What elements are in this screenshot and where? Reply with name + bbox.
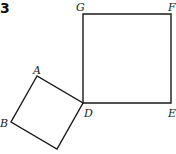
- vertex-label-f: F: [167, 1, 176, 14]
- square-abcd: [11, 76, 83, 149]
- vertex-label-b: B: [0, 117, 8, 130]
- figure-number: 3: [0, 0, 10, 16]
- vertex-label-d: D: [83, 107, 93, 120]
- vertex-label-a: A: [32, 64, 41, 77]
- vertex-label-e: E: [167, 107, 176, 120]
- geometry-diagram: 3 G F E D A B: [0, 0, 176, 154]
- square-gfed: [83, 14, 171, 103]
- vertex-label-g: G: [76, 1, 85, 14]
